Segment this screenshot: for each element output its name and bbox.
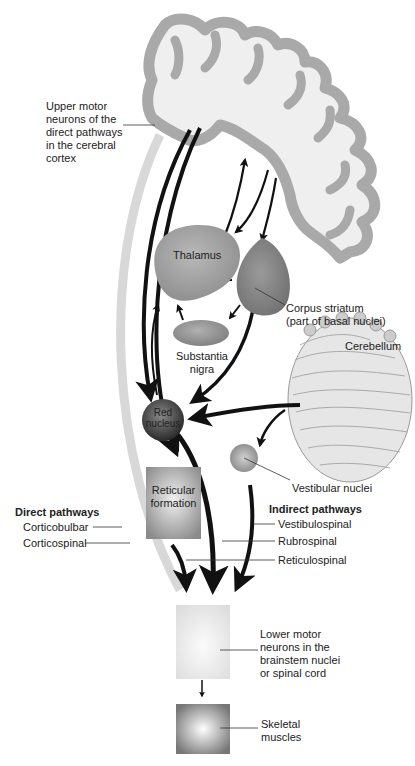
cortex-to-striatum-arrow [262, 178, 276, 240]
direct-pathway-item: Corticobulbar [23, 521, 88, 534]
direct-pathway-item: Corticospinal [23, 537, 87, 550]
corpus-striatum-label: Corpus striatum (part of basal nuclei) [286, 302, 386, 328]
corpus-striatum [237, 238, 290, 316]
thalamus-label: Thalamus [173, 249, 221, 262]
indirect-pathway-item: Rubrospinal [278, 535, 337, 548]
cerebellum-label: Cerebellum [345, 340, 401, 353]
vestibular-nuclei-label: Vestibular nuclei [292, 482, 372, 495]
cerebral-cortex [148, 19, 375, 258]
red-nucleus-label: Red nucleus [142, 407, 184, 429]
upper-motor-neurons-label: Upper motor neurons of the direct pathwa… [46, 100, 122, 165]
indirect-pathway-item: Reticulospinal [278, 554, 346, 567]
skeletal-muscles-label: Skeletal muscles [261, 718, 301, 744]
lower-motor-neurons [176, 605, 230, 679]
vestibulospinal-arrow [238, 485, 252, 585]
thalamus [154, 225, 240, 301]
cerebellum-to-vestibular-arrow [260, 410, 285, 445]
lower-motor-neurons-label: Lower motor neurons in the brainstem nuc… [260, 628, 340, 680]
nigra-to-thalamus-arrow [178, 306, 183, 320]
indirect-pathway-item: Vestibulospinal [278, 518, 351, 531]
skeletal-muscles [176, 704, 230, 754]
indirect-pathways-title: Indirect pathways [269, 503, 362, 516]
cerebellum [288, 312, 412, 482]
reticular-formation-label: Reticular formation [146, 484, 201, 510]
substantia-nigra-label: Substantia nigra [172, 350, 232, 376]
substantia-nigra [173, 320, 229, 346]
direct-pathways-title: Direct pathways [15, 506, 99, 519]
thalamus-to-cortex-arrow [225, 160, 245, 235]
striatum-to-nigra-arrow [230, 305, 240, 318]
